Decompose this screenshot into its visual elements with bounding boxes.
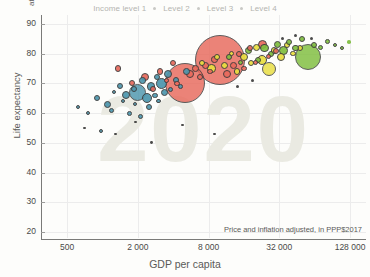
bubble-point[interactable] (292, 45, 298, 51)
bubble-point[interactable] (253, 44, 260, 51)
bubble-point[interactable] (122, 91, 130, 99)
bubble-point[interactable] (156, 99, 160, 103)
y-axis-line (41, 15, 42, 239)
bubble-point[interactable] (299, 36, 305, 42)
bubble-point[interactable] (236, 51, 242, 57)
bubble-point[interactable] (311, 42, 317, 48)
bubble-point[interactable] (150, 86, 156, 92)
x-axis-note: Price and inflation adjusted, in PPP$201… (224, 225, 362, 234)
bubble-point[interactable] (207, 69, 213, 75)
y-tick-label: 40 (0, 167, 36, 177)
bubble-point[interactable] (142, 93, 152, 103)
y-axis-title: Life expectancy (11, 46, 22, 166)
bubble-point[interactable] (99, 129, 103, 133)
bubble-point[interactable] (178, 84, 183, 89)
y-tick-mark (41, 232, 45, 233)
bubble-point[interactable] (170, 60, 176, 66)
legend-item-level1[interactable]: Income level 1 (93, 4, 146, 13)
bubble-point[interactable] (325, 39, 330, 44)
legend-separator-dot (197, 7, 200, 10)
bubble-point[interactable] (138, 114, 143, 119)
bubble-point[interactable] (192, 65, 199, 72)
bubble-point[interactable] (133, 102, 137, 106)
legend-separator-dot (153, 7, 156, 10)
y-tick-mark (41, 143, 45, 144)
legend-item-level2[interactable]: Level 2 (163, 4, 190, 13)
bubble-point[interactable] (121, 99, 125, 103)
bubble-point[interactable] (183, 68, 190, 75)
bubble-point[interactable] (260, 44, 268, 52)
legend-separator-dot (240, 7, 243, 10)
x-tick-label: 2 000 (108, 242, 168, 252)
legend: Income level 1 Level 2 Level 3 Level 4 (0, 1, 370, 15)
y-tick-label: 20 (0, 226, 36, 236)
y-tick-label: 30 (0, 196, 36, 206)
bubble-point[interactable] (114, 133, 117, 136)
bubble-point[interactable] (236, 85, 239, 88)
bubble-point[interactable] (164, 78, 169, 83)
bubble-point[interactable] (340, 46, 344, 50)
y-tick-mark (41, 113, 45, 114)
legend-item-level4[interactable]: Level 4 (250, 4, 277, 13)
plot-area[interactable]: 2020 (41, 15, 366, 238)
bubble-point[interactable] (104, 101, 111, 108)
bubble-point[interactable] (318, 45, 323, 50)
y-tick-mark (41, 202, 45, 203)
bubble-series[interactable] (41, 15, 366, 238)
y-tick-mark (41, 83, 45, 84)
bubble-point[interactable] (286, 39, 292, 45)
bubble-point[interactable] (310, 37, 313, 40)
x-tick-label: 500 (37, 242, 97, 252)
bubble-point[interactable] (247, 45, 253, 51)
bubble-point[interactable] (273, 48, 279, 54)
bubble-point[interactable] (134, 121, 137, 124)
bubble-point[interactable] (241, 66, 246, 71)
x-tick-label: 8 000 (179, 242, 239, 252)
bubble-point[interactable] (333, 43, 337, 47)
bubble-point[interactable] (83, 127, 86, 130)
bubble-point[interactable] (234, 68, 240, 74)
bubble-point[interactable] (214, 54, 220, 60)
chart-canvas: Income level 1 Level 2 Level 3 Level 4 2… (0, 0, 370, 277)
bubble-point[interactable] (294, 34, 297, 37)
bubble-point[interactable] (281, 37, 284, 40)
x-axis-title: GDP per capita (0, 258, 370, 270)
bubble-point[interactable] (181, 124, 184, 127)
legend-item-level3[interactable]: Level 3 (207, 4, 234, 13)
bubble-point[interactable] (347, 40, 351, 44)
y-tick-label: 90 (0, 18, 36, 28)
y-tick-mark (41, 173, 45, 174)
bubble-point[interactable] (150, 141, 153, 144)
bubble-point[interactable] (266, 54, 271, 59)
bubble-point[interactable] (117, 83, 123, 89)
bubble-point[interactable] (251, 79, 254, 82)
y-tick-mark (41, 24, 45, 25)
bubble-point[interactable] (152, 93, 157, 98)
bubble-point[interactable] (277, 53, 285, 61)
bubble-point[interactable] (146, 104, 152, 110)
y-axis-unit: at birth (27, 0, 36, 6)
bubble-point[interactable] (127, 111, 132, 116)
x-axis-line (41, 239, 366, 240)
bubble-point[interactable] (253, 60, 259, 66)
bubble-point[interactable] (76, 105, 80, 109)
bubble-point[interactable] (112, 90, 116, 94)
bubble-point[interactable] (115, 65, 121, 71)
bubble-point[interactable] (213, 133, 216, 136)
y-tick-mark (41, 54, 45, 55)
bubble-point[interactable] (109, 108, 114, 113)
bubble-point[interactable] (199, 60, 205, 66)
x-tick-label: 32 000 (249, 242, 309, 252)
bubble-point[interactable] (139, 77, 145, 83)
x-tick-label: 128 000 (320, 242, 370, 252)
bubble-point[interactable] (86, 111, 90, 115)
bubble-point[interactable] (94, 95, 100, 101)
